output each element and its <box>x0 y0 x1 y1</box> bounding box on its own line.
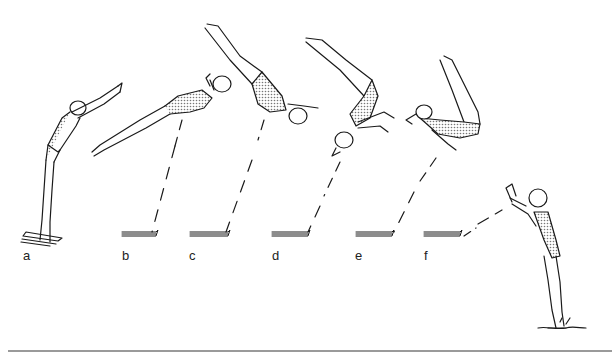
board-f <box>424 230 462 236</box>
stage-label-a: a <box>23 249 30 262</box>
board-d <box>272 230 310 236</box>
stage-label-b: b <box>122 249 129 262</box>
stage-label-c: c <box>189 249 196 262</box>
diver-stage-d <box>306 38 394 232</box>
diver-stage-a <box>21 83 122 246</box>
board-c <box>190 230 230 236</box>
diving-illustration <box>0 0 612 354</box>
bottom-rule-divider <box>8 350 612 352</box>
diver-stage-f <box>464 184 586 329</box>
diving-sequence-figure: a b c d e f <box>0 0 612 354</box>
diver-stage-c <box>205 24 318 232</box>
springboards <box>122 230 462 236</box>
stage-label-d: d <box>272 249 279 262</box>
board-e <box>356 230 394 236</box>
stage-label-f: f <box>424 249 428 262</box>
diver-stage-e <box>394 56 480 232</box>
stage-label-e: e <box>355 249 362 262</box>
